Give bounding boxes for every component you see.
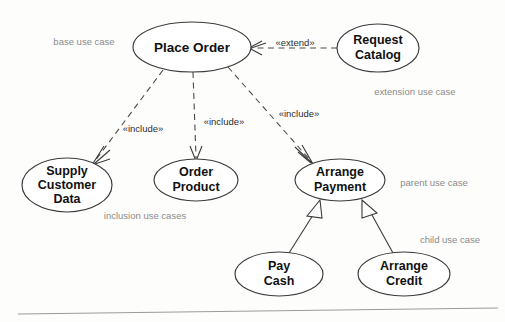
use-case-supply-customer-data[interactable]: Supply Customer Data [22,158,112,212]
use-case-label-line2: Credit [386,274,423,288]
relationship-include-supply-customer-data: «include» [92,70,163,165]
use-case-arrange-credit[interactable]: Arrange Credit [358,252,450,296]
use-case-diagram: «extend» «include» «include» «include» [0,0,505,322]
page-edge-rule [18,308,498,314]
relationship-generalization-pay-cash [289,200,322,253]
relationship-generalization-arrange-credit [362,200,393,253]
use-case-label-line2: Catalog [355,48,401,62]
use-case-order-product[interactable]: Order Product [154,159,238,201]
include-line [193,72,196,158]
open-arrowhead-icon [295,145,313,164]
use-case-place-order[interactable]: Place Order [133,22,251,72]
use-case-label-line1: Order [179,165,213,179]
generalization-line [289,215,313,253]
use-case-label-line2: Cash [264,274,295,288]
use-case-label-line3: Data [53,192,81,206]
annotation-child-use-case: child use case [420,234,480,245]
relationship-include-order-product: «include» [190,72,244,161]
use-case-label-line1: Request [353,33,403,47]
hollow-triangle-arrowhead-icon [307,200,322,218]
relationship-extend-request-catalog: «extend» [249,37,337,55]
annotation-inclusion-use-cases: inclusion use cases [104,210,187,221]
use-case-label-line1: Supply [46,164,88,178]
open-arrowhead-icon [92,146,110,165]
use-case-label-line1: Pay [268,259,290,273]
include-line [95,70,163,161]
stereotype-include-label: «include» [279,108,320,119]
use-case-label-line2: Product [172,180,220,194]
use-case-label-line2: Payment [314,180,367,194]
hollow-triangle-arrowhead-icon [362,200,377,218]
use-case-arrange-payment[interactable]: Arrange Payment [295,159,385,201]
use-case-label: Place Order [154,40,231,55]
use-case-pay-cash[interactable]: Pay Cash [235,252,323,296]
use-case-request-catalog[interactable]: Request Catalog [337,24,419,72]
generalization-line [372,215,393,253]
stereotype-include-label: «include» [123,123,164,134]
diagram-canvas: «extend» «include» «include» «include» [0,0,505,322]
use-case-label-line1: Arrange [380,259,428,273]
annotation-base-use-case: base use case [53,36,114,47]
annotation-extension-use-case: extension use case [374,86,455,97]
use-case-label-line1: Arrange [316,165,364,179]
stereotype-include-label: «include» [204,116,245,127]
annotation-parent-use-case: parent use case [400,177,468,188]
use-case-label-line2: Customer [38,178,96,192]
stereotype-extend-label: «extend» [275,37,314,48]
